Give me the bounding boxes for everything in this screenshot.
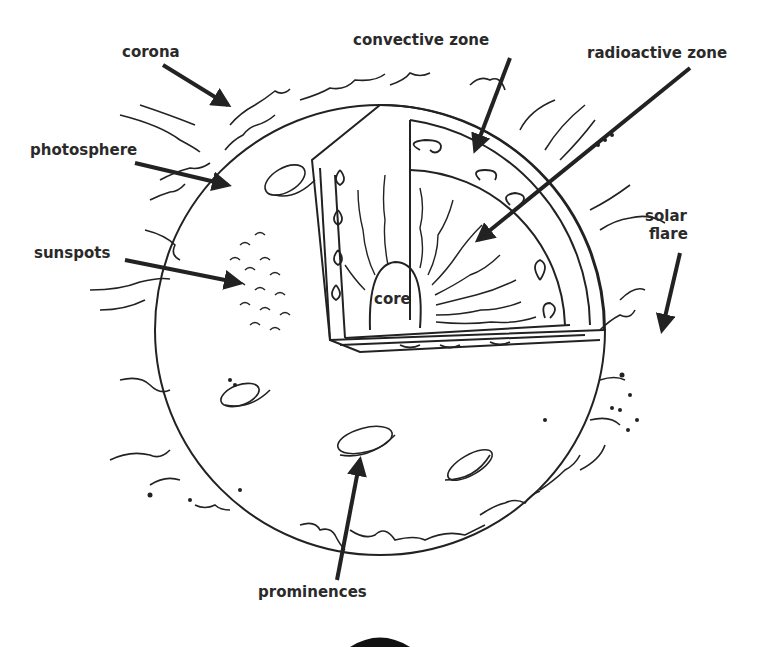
arrow-sunspots	[125, 260, 240, 283]
label-corona: corona	[122, 44, 180, 61]
arrow-photosphere	[135, 163, 228, 185]
label-solar-flare-2: flare	[649, 226, 688, 243]
label-sunspots: sunspots	[34, 245, 110, 262]
arrow-prominences	[337, 460, 360, 580]
label-radioactive-zone: radioactive zone	[587, 45, 727, 62]
sun-diagram	[0, 0, 760, 647]
bottom-partial-shape	[350, 638, 410, 647]
arrow-corona	[163, 65, 228, 105]
cutaway	[312, 105, 604, 352]
photosphere-circle	[155, 105, 605, 555]
arrow-solar-flare	[662, 253, 680, 330]
corona-wisps	[90, 73, 665, 550]
label-convective-zone: convective zone	[353, 32, 489, 49]
label-prominences: prominences	[258, 584, 367, 601]
surface-features	[218, 159, 497, 487]
label-core: core	[374, 291, 411, 308]
label-solar-flare-1: solar	[645, 208, 687, 225]
label-photosphere: photosphere	[30, 142, 137, 159]
